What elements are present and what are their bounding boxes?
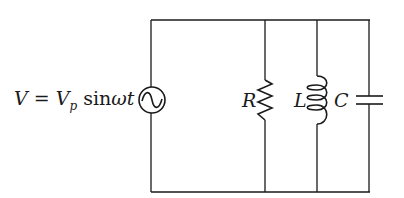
sine-function: sin <box>83 87 111 109</box>
omega-t: ωt <box>111 87 134 109</box>
resistor-icon <box>258 80 272 120</box>
peak-voltage-symbol: V <box>56 87 70 109</box>
ac-source-icon <box>139 87 165 113</box>
source-equation: V = Vp sinωt <box>14 89 134 108</box>
resistor-label: R <box>242 91 256 110</box>
capacitor-icon <box>356 96 383 104</box>
equals-sign: = <box>34 87 50 109</box>
peak-subscript: p <box>69 99 77 113</box>
inductor-icon <box>307 76 327 124</box>
inductor-label: L <box>294 91 307 110</box>
capacitor-label: C <box>334 91 349 110</box>
voltage-symbol: V <box>14 87 28 109</box>
